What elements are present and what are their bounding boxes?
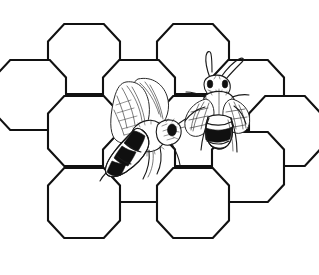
illustration-canvas <box>0 0 319 275</box>
bee-left-eye <box>168 124 177 136</box>
honeycomb-cell <box>48 168 120 238</box>
bee-right-eye-right <box>222 80 228 88</box>
honeycomb-bees-illustration <box>0 0 319 275</box>
bee-right-eye-left <box>207 80 213 88</box>
honeycomb-cell <box>157 168 229 238</box>
